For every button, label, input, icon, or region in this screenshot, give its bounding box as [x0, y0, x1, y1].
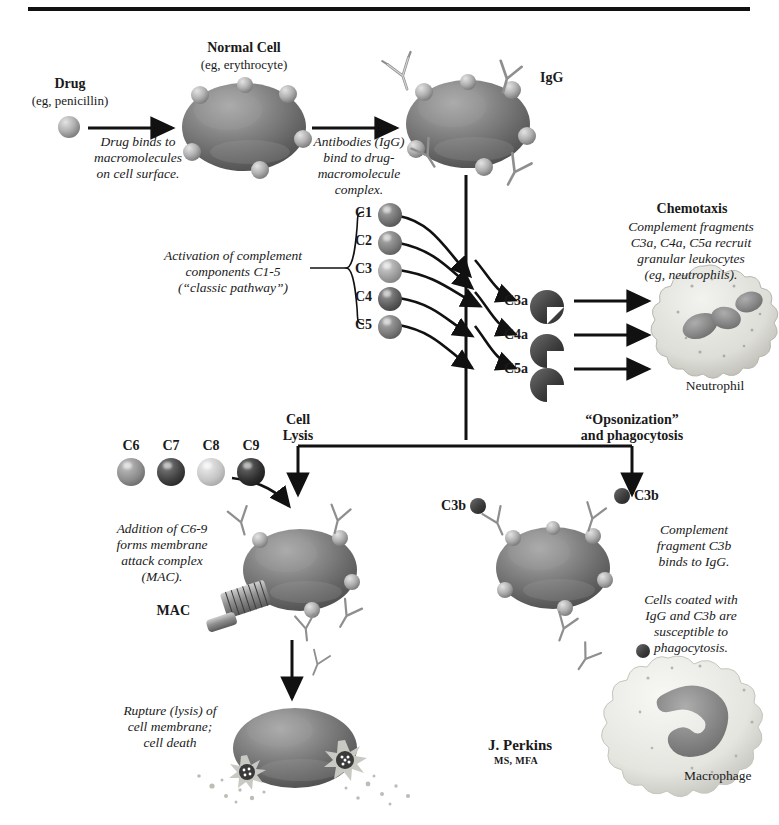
caption-mac-formation: Addition of C6-9 forms membrane attack c… — [96, 521, 228, 585]
label-c4a: C4a — [486, 327, 528, 344]
caption-c3b-binds: Complement fragment C3b binds to IgG. — [624, 522, 764, 570]
component-sphere-c7 — [157, 458, 185, 486]
caption-rupture: Rupture (lysis) of cell membrane; cell d… — [102, 703, 238, 751]
label-c5: C5 — [336, 317, 372, 334]
caption-complement-activation: Activation of complement components C1-5… — [158, 248, 308, 296]
label-c9: C9 — [233, 438, 269, 455]
component-sphere-c2 — [378, 231, 402, 255]
caption-antibodies-bind: Antibodies (IgG) bind to drug- macromole… — [306, 134, 412, 198]
component-sphere-c4 — [378, 287, 402, 311]
label-c6: C6 — [113, 438, 149, 455]
drug-title: Drug — [18, 76, 122, 93]
chemotaxis-caption: Complement fragments C3a, C4a, C5a recru… — [603, 219, 779, 283]
label-c8: C8 — [193, 438, 229, 455]
component-sphere-c8 — [197, 458, 225, 486]
label-mac: MAC — [130, 603, 190, 620]
normal-cell-subtitle: (eg, erythrocyte) — [166, 57, 322, 72]
component-sphere-c9 — [237, 458, 265, 486]
label-c2: C2 — [336, 233, 372, 250]
diagram-canvas: Drug (eg, penicillin) Normal Cell (eg, e… — [0, 0, 779, 825]
label-c7: C7 — [153, 438, 189, 455]
opsonized-cell-art — [470, 488, 630, 616]
component-sphere-c5 — [378, 315, 402, 339]
label-c5a: C5a — [486, 361, 528, 378]
label-c1: C1 — [336, 205, 372, 222]
artist-credit-degrees: MS, MFA — [494, 755, 538, 766]
chemotaxis-title: Chemotaxis — [612, 201, 772, 218]
label-c3: C3 — [336, 261, 372, 278]
normal-cell-title: Normal Cell — [172, 40, 316, 57]
component-sphere-c6 — [117, 458, 145, 486]
label-c3b-right: C3b — [634, 488, 659, 505]
igg-cell-art — [406, 74, 536, 176]
label-c4: C4 — [336, 289, 372, 306]
component-sphere-c1 — [378, 203, 402, 227]
neutrophil-label: Neutrophil — [656, 378, 774, 394]
component-sphere-c3 — [378, 259, 402, 283]
normal-cell-art — [182, 77, 312, 179]
label-c3b-left: C3b — [424, 498, 466, 515]
complement-fragment-shapes — [530, 290, 564, 402]
label-c3a: C3a — [486, 293, 528, 310]
igg-label: IgG — [540, 70, 563, 87]
branch-label-cell-lysis: Cell Lysis — [258, 412, 338, 443]
caption-drug-binds: Drug binds to macromolecules on cell sur… — [86, 134, 190, 182]
branch-label-opsonization: “Opsonization” and phagocytosis — [528, 412, 736, 443]
igg-group-ruptured — [305, 650, 330, 678]
drug-subtitle: (eg, penicillin) — [8, 93, 132, 108]
caption-cells-coated: Cells coated with IgG and C3b are suscep… — [616, 592, 766, 656]
artist-credit-name: J. Perkins — [488, 737, 552, 754]
macrophage-label: Macrophage — [684, 768, 751, 784]
